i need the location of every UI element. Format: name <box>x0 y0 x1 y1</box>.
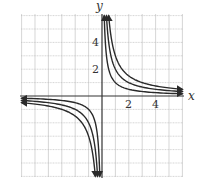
hyperbola-branch <box>106 16 182 92</box>
hyperbola-branch <box>22 103 96 177</box>
hyperbola-branch <box>22 100 98 176</box>
x-tick-4: 4 <box>152 98 159 111</box>
hyperbola-graph: x y 2 4 2 4 <box>0 0 205 182</box>
axes <box>20 14 184 178</box>
x-axis-label: x <box>188 89 195 103</box>
hyperbola-branch <box>109 16 183 90</box>
y-tick-2: 2 <box>92 63 99 76</box>
y-tick-4: 4 <box>92 36 99 49</box>
hyperbola-branch <box>22 98 100 176</box>
hyperbola-branch <box>104 16 182 94</box>
x-tick-2: 2 <box>125 98 132 111</box>
y-axis-label: y <box>95 0 103 13</box>
